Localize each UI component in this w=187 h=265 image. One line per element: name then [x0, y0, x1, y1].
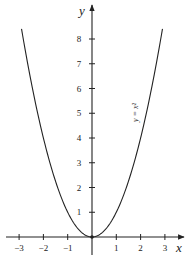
x-tick-label: −2: [39, 243, 49, 253]
x-tick-label: 3: [163, 243, 168, 253]
curve-label: y = x²: [131, 103, 140, 124]
x-tick-label: 2: [138, 243, 143, 253]
y-tick-label: 5: [77, 108, 82, 118]
y-tick-label: 6: [77, 84, 82, 94]
y-tick-label: 2: [77, 183, 82, 193]
y-tick-label: 8: [77, 34, 82, 44]
y-tick-label: 3: [77, 158, 82, 168]
x-tick-label: 1: [114, 243, 119, 253]
axes: [6, 5, 184, 255]
x-tick-label: −1: [63, 243, 73, 253]
y-tick-label: 1: [77, 207, 82, 217]
x-axis-label: x: [175, 240, 182, 255]
y-tick-label: 7: [77, 59, 82, 69]
y-axis-label: y: [77, 3, 85, 18]
parabola-chart: −3−2−1123 12345678 x y y = x²: [0, 0, 187, 265]
y-tick-label: 4: [77, 133, 82, 143]
x-tick-label: −3: [14, 243, 24, 253]
